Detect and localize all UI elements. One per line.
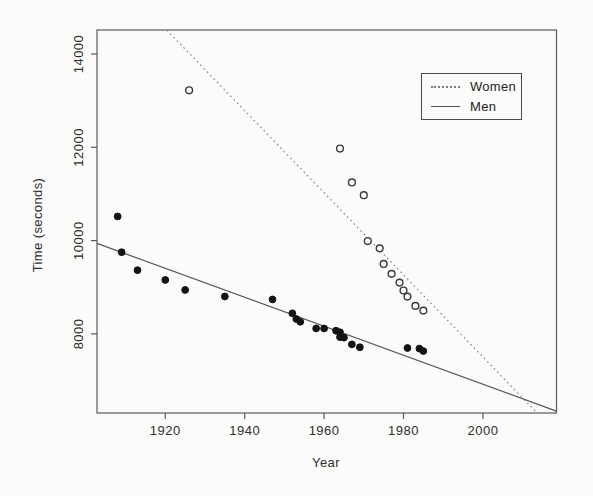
women-data-point	[364, 238, 371, 245]
men-data-point	[313, 325, 320, 332]
women-data-point	[337, 145, 344, 152]
legend-label-men: Men	[470, 99, 496, 114]
men-data-point	[356, 344, 363, 351]
men-data-point	[269, 296, 276, 303]
men-data-point	[182, 287, 189, 294]
men-data-point	[114, 213, 121, 220]
women-data-point	[186, 87, 193, 94]
women-data-point	[404, 293, 411, 300]
women-data-point	[412, 303, 419, 310]
men-data-point	[162, 277, 169, 284]
men-data-point	[420, 348, 427, 355]
men-data-point	[118, 249, 125, 256]
women-data-point	[360, 192, 367, 199]
y-tick-label: 14000	[71, 35, 86, 74]
legend-label-women: Women	[470, 79, 516, 94]
men-data-point	[297, 318, 304, 325]
men-data-point	[134, 267, 141, 274]
x-tick-label: 1940	[229, 423, 260, 438]
y-tick-label: 12000	[71, 128, 86, 167]
women-data-point	[376, 245, 383, 252]
x-tick-label: 2000	[467, 423, 498, 438]
legend: Women Men	[421, 73, 522, 120]
y-tick-label: 10000	[71, 221, 86, 260]
marathon-record-chart: 192019401960198020008000100001200014000 …	[0, 0, 593, 496]
women-dotted-line-sample	[431, 86, 460, 88]
x-tick-label: 1980	[388, 423, 419, 438]
y-axis-title: Time (seconds)	[30, 178, 45, 273]
women-data-point	[348, 179, 355, 186]
legend-entry-women: Women	[431, 79, 521, 94]
men-data-point	[404, 345, 411, 352]
men-data-point	[348, 341, 355, 348]
legend-entry-men: Men	[431, 99, 521, 114]
men-data-point	[341, 334, 348, 341]
men-data-point	[321, 325, 328, 332]
women-data-point	[420, 307, 427, 314]
men-data-point	[221, 293, 228, 300]
men-solid-line-sample	[431, 106, 460, 107]
y-tick-label: 8000	[71, 318, 86, 349]
women-data-point	[396, 279, 403, 286]
x-tick-label: 1960	[309, 423, 340, 438]
women-data-point	[380, 261, 387, 268]
x-tick-label: 1920	[150, 423, 181, 438]
women-data-point	[388, 270, 395, 277]
x-axis-title: Year	[312, 455, 340, 470]
